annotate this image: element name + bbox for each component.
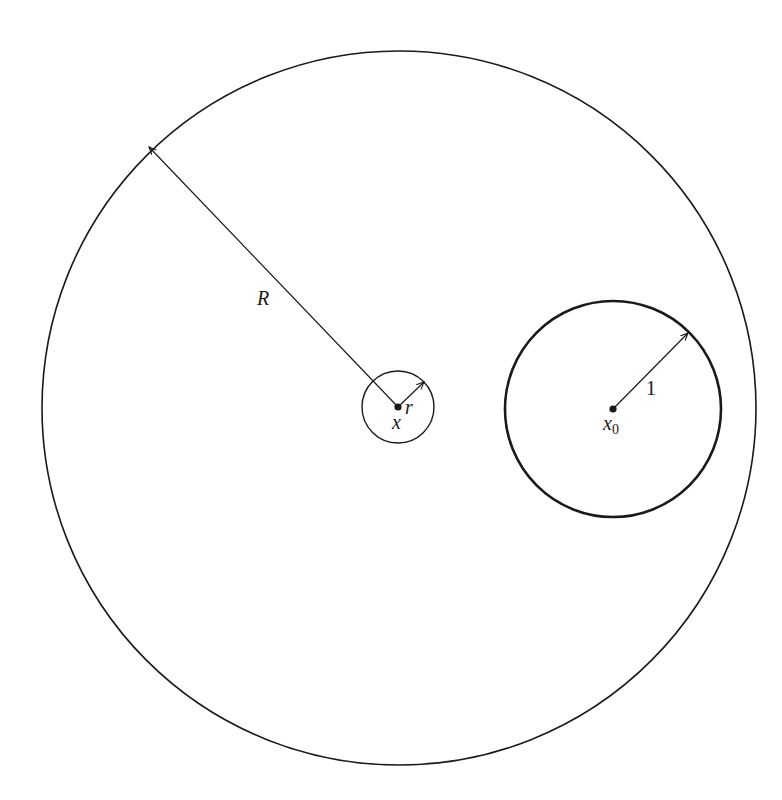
point-x-label: x: [391, 411, 401, 433]
small-radius-label: r: [405, 396, 413, 418]
outer-radius-arrow: [149, 147, 398, 407]
unit-radius-label: 1: [646, 377, 656, 399]
outer-radius-label: R: [256, 287, 269, 309]
diagram-canvas: R r x 1 x0: [0, 0, 782, 800]
point-x: [394, 403, 401, 410]
point-x0-label-base: x: [602, 412, 612, 434]
point-x0-label: x0: [602, 412, 619, 437]
point-x0-label-subscript: 0: [612, 422, 619, 437]
